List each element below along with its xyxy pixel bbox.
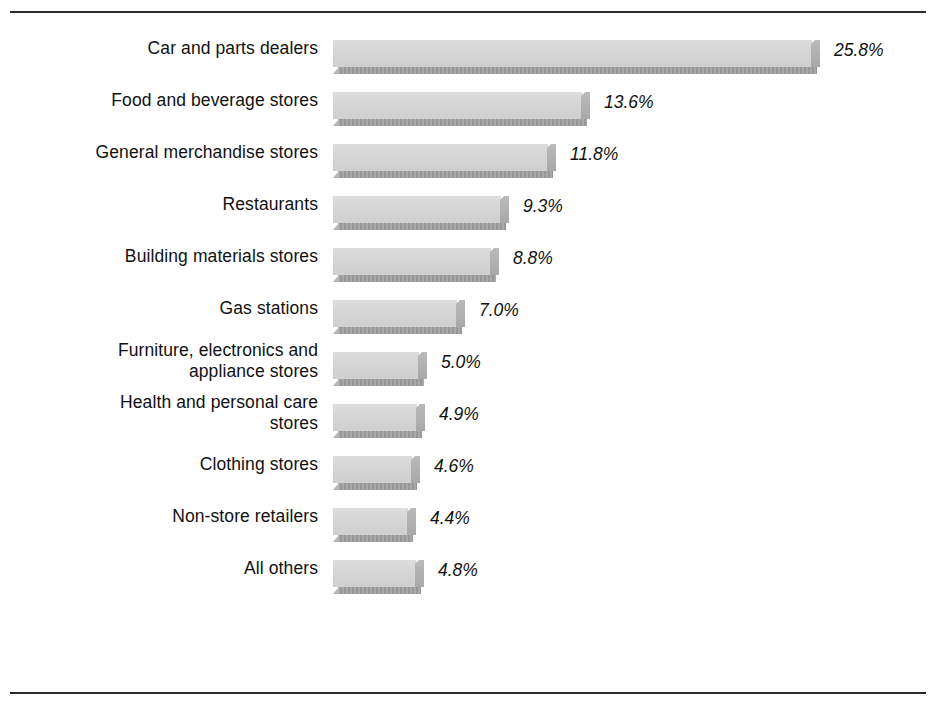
bar-side-face (500, 192, 509, 223)
bar-top-bevel (337, 296, 465, 300)
bar-row: Furniture, electronics and appliance sto… (0, 342, 936, 394)
bar-row: Gas stations7.0% (0, 290, 936, 342)
bar-top-bevel (337, 400, 425, 404)
bar-top-bevel (337, 140, 556, 144)
bar-front-face (333, 404, 417, 431)
bar-value-label: 7.0% (479, 300, 519, 321)
category-label: Health and personal care stores (20, 392, 318, 434)
bar-chart-plot-area: Car and parts dealers25.8%Food and bever… (0, 30, 936, 680)
bar-top-bevel (337, 556, 424, 560)
bar (333, 348, 427, 386)
bar (333, 556, 424, 594)
bar-front-face (333, 560, 416, 587)
bar-bottom-face (338, 275, 496, 282)
bar-bottom-face (338, 483, 417, 490)
bar-row: Building materials stores8.8% (0, 238, 936, 290)
chart-figure: Car and parts dealers25.8%Food and bever… (0, 0, 936, 707)
bar-bottom-face (338, 587, 421, 594)
bar-row: Car and parts dealers25.8% (0, 30, 936, 82)
bar-top-bevel (337, 504, 416, 508)
bottom-rule (10, 692, 926, 694)
bar-front-face (333, 196, 501, 223)
bar (333, 36, 820, 74)
bar-value-label: 5.0% (441, 352, 481, 373)
bar-value-label: 25.8% (834, 40, 884, 61)
category-label: Non-store retailers (20, 506, 318, 527)
bar-top-bevel (337, 244, 499, 248)
bar (333, 296, 465, 334)
bar-value-label: 4.9% (439, 404, 479, 425)
category-label: Car and parts dealers (20, 38, 318, 59)
bar (333, 452, 420, 490)
category-label: Furniture, electronics and appliance sto… (20, 340, 318, 382)
category-label: Clothing stores (20, 454, 318, 475)
bar (333, 400, 425, 438)
bar-bottom-face (338, 327, 462, 334)
bar-front-face (333, 40, 812, 67)
bar-side-face (416, 400, 425, 431)
bar-bottom-face (338, 535, 413, 542)
bar (333, 504, 416, 542)
top-rule (10, 11, 926, 13)
bar-value-label: 4.4% (430, 508, 470, 529)
category-label: Gas stations (20, 298, 318, 319)
bar-value-label: 4.8% (438, 560, 478, 581)
bar-front-face (333, 144, 548, 171)
bar-bottom-face (338, 223, 506, 230)
bar (333, 88, 590, 126)
bar-side-face (547, 140, 556, 171)
bar-top-bevel (337, 36, 820, 40)
bar-row: Clothing stores4.6% (0, 446, 936, 498)
bar (333, 140, 556, 178)
bar-row: Restaurants9.3% (0, 186, 936, 238)
bar-top-bevel (337, 452, 420, 456)
category-label: General merchandise stores (20, 142, 318, 163)
bar-top-bevel (337, 348, 427, 352)
bar-front-face (333, 456, 412, 483)
category-label: Food and beverage stores (20, 90, 318, 111)
bar-row: Health and personal care stores4.9% (0, 394, 936, 446)
bar-front-face (333, 92, 582, 119)
bar-value-label: 13.6% (604, 92, 654, 113)
bar-side-face (456, 296, 465, 327)
bar-row: All others4.8% (0, 550, 936, 602)
bar-bottom-face (338, 67, 817, 74)
bar-side-face (415, 556, 424, 587)
bar-top-bevel (337, 192, 509, 196)
bar-side-face (581, 88, 590, 119)
category-label: Restaurants (20, 194, 318, 215)
bar-value-label: 11.8% (570, 144, 618, 165)
bar-bottom-face (338, 431, 422, 438)
bar-value-label: 8.8% (513, 248, 553, 269)
bar (333, 192, 509, 230)
bar-value-label: 9.3% (523, 196, 563, 217)
bar-side-face (407, 504, 416, 535)
bar (333, 244, 499, 282)
category-label: Building materials stores (20, 246, 318, 267)
bar-bottom-face (338, 171, 553, 178)
bar-front-face (333, 248, 491, 275)
category-label: All others (20, 558, 318, 579)
bar-row: Non-store retailers4.4% (0, 498, 936, 550)
bar-side-face (490, 244, 499, 275)
bar-bottom-face (338, 119, 587, 126)
bar-row: General merchandise stores11.8% (0, 134, 936, 186)
bar-row: Food and beverage stores13.6% (0, 82, 936, 134)
bar-top-bevel (337, 88, 590, 92)
bar-front-face (333, 508, 408, 535)
bar-side-face (811, 36, 820, 67)
bar-bottom-face (338, 379, 424, 386)
bar-front-face (333, 300, 457, 327)
bar-front-face (333, 352, 419, 379)
bar-value-label: 4.6% (434, 456, 474, 477)
bar-side-face (411, 452, 420, 483)
bar-side-face (418, 348, 427, 379)
